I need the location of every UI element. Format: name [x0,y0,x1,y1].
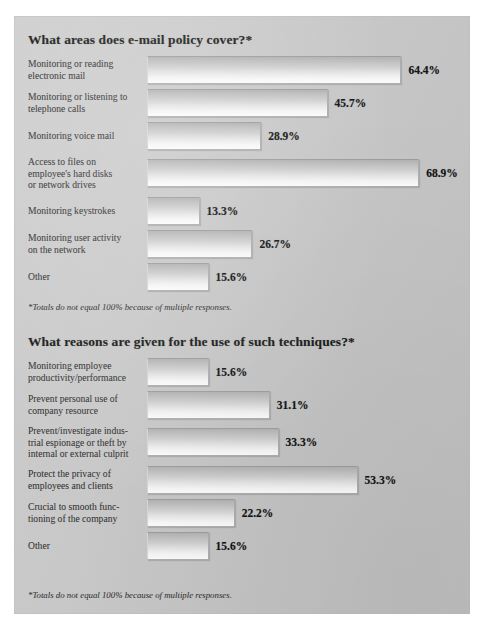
chart-footnote-2: *Totals do not equal 100% because of mul… [28,590,232,600]
chart-bar [147,230,252,258]
chart-bar-wrap: 53.3% [147,466,470,494]
chart-bar-value: 22.2% [242,507,274,519]
chart-row: Monitoring or listening totelephone call… [14,89,470,117]
chart-row-label: Monitoring or readingelectronic mail [28,58,148,81]
chart-row-label-line: on the network [28,244,148,256]
bar-chart-email-policy: Monitoring or readingelectronic mail64.4… [14,56,470,296]
chart-bar [147,532,209,560]
chart-bar [147,391,270,419]
chart-bar-value: 15.6% [216,366,248,378]
chart-row-label-line: Monitoring voice mail [28,130,148,142]
chart-row-label-line: electronic mail [28,70,148,82]
chart-bar [147,159,419,187]
chart-bar [147,197,200,225]
chart-bar-value: 15.6% [216,271,248,283]
chart-bar-wrap: 28.9% [147,122,470,150]
chart-row: Monitoring employeeproductivity/performa… [14,358,470,386]
chart-bar-wrap: 33.3% [147,428,470,456]
chart-bar [147,358,209,386]
chart-bar-wrap: 68.9% [147,159,470,187]
chart-bar [147,122,261,150]
chart-row-label-line: Other [28,540,148,552]
chart-row-label: Prevent personal use ofcompany resource [28,393,148,416]
chart-row-label-line: Prevent/investigate indus- [28,425,148,437]
chart-row-label-line: trial espionage or theft by [28,437,148,449]
chart-row-label: Monitoring voice mail [28,130,148,142]
chart-bar-wrap: 26.7% [147,230,470,258]
chart-row-label-line: Monitoring employee [28,360,148,372]
chart-row-label-line: Monitoring keystrokes [28,205,148,217]
chart-row: Crucial to smooth func-tioning of the co… [14,499,470,527]
chart-bar-wrap: 22.2% [147,499,470,527]
chart-row-label-line: Prevent personal use of [28,393,148,405]
chart-bar [147,263,209,291]
chart-row: Prevent personal use ofcompany resource3… [14,391,470,419]
figure-page: What areas does e-mail policy cover?* Mo… [0,0,483,630]
chart-bar-wrap: 45.7% [147,89,470,117]
chart-bar [147,428,279,456]
chart-title-2: What reasons are given for the use of su… [28,334,355,350]
chart-bar-value: 33.3% [286,436,318,448]
chart-row-label-line: Crucial to smooth func- [28,501,148,513]
chart-bar-wrap: 64.4% [147,56,470,84]
chart-bar-value: 45.7% [335,97,367,109]
chart-row: Monitoring keystrokes13.3% [14,197,470,225]
chart-title-1: What areas does e-mail policy cover?* [28,32,252,48]
chart-row-label: Protect the privacy ofemployees and clie… [28,468,148,491]
chart-row-label: Other [28,271,148,283]
chart-bar-value: 68.9% [426,167,458,179]
chart-row-label: Monitoring or listening totelephone call… [28,91,148,114]
chart-row-label-line: Protect the privacy of [28,468,148,480]
chart-row-label: Monitoring employeeproductivity/performa… [28,360,148,383]
chart-bar-value: 15.6% [216,540,248,552]
chart-row: Other15.6% [14,532,470,560]
chart-bar [147,466,358,494]
chart-row: Other15.6% [14,263,470,291]
chart-bar-wrap: 15.6% [147,532,470,560]
chart-row-label-line: tioning of the company [28,513,148,525]
chart-bar-wrap: 31.1% [147,391,470,419]
chart-bar-value: 26.7% [259,238,291,250]
chart-row-label-line: employees and clients [28,480,148,492]
chart-row-label-line: Monitoring user activity [28,232,148,244]
chart-row-label: Crucial to smooth func-tioning of the co… [28,501,148,524]
chart-row: Prevent/investigate indus-trial espionag… [14,424,470,461]
chart-bar-value: 13.3% [207,205,239,217]
chart-row: Monitoring voice mail28.9% [14,122,470,150]
chart-bar [147,56,401,84]
chart-row-label-line: internal or external culprit [28,448,148,460]
chart-row-label: Monitoring user activityon the network [28,232,148,255]
chart-row: Protect the privacy ofemployees and clie… [14,466,470,494]
chart-row-label: Other [28,540,148,552]
chart-row: Access to files onemployee's hard diskso… [14,155,470,192]
chart-panel: What areas does e-mail policy cover?* Mo… [14,16,470,614]
chart-row: Monitoring user activityon the network26… [14,230,470,258]
chart-bar-wrap: 13.3% [147,197,470,225]
chart-row-label-line: Other [28,271,148,283]
chart-row-label-line: employee's hard disks [28,168,148,180]
chart-row-label-line: productivity/performance [28,372,148,384]
chart-row-label-line: or network drives [28,179,148,191]
chart-bar [147,89,328,117]
chart-row-label: Monitoring keystrokes [28,205,148,217]
chart-row-label-line: Monitoring or listening to [28,91,148,103]
chart-row-label-line: Access to files on [28,156,148,168]
chart-bar-value: 64.4% [408,64,440,76]
chart-row-label-line: company resource [28,405,148,417]
chart-bar-wrap: 15.6% [147,263,470,291]
chart-bar-value: 53.3% [365,474,397,486]
chart-row-label-line: telephone calls [28,103,148,115]
chart-row-label-line: Monitoring or reading [28,58,148,70]
chart-bar-wrap: 15.6% [147,358,470,386]
chart-bar-value: 31.1% [277,399,309,411]
chart-bar [147,499,235,527]
chart-row: Monitoring or readingelectronic mail64.4… [14,56,470,84]
chart-row-label: Prevent/investigate indus-trial espionag… [28,425,148,460]
bar-chart-reasons: Monitoring employeeproductivity/performa… [14,358,470,565]
chart-row-label: Access to files onemployee's hard diskso… [28,156,148,191]
chart-bar-value: 28.9% [268,130,300,142]
chart-footnote-1: *Totals do not equal 100% because of mul… [28,302,232,312]
